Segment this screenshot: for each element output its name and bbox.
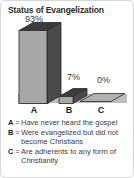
bar-chart-plot — [1, 14, 134, 106]
bar-value-label-a: 93% — [25, 14, 43, 24]
bar-value-label-c: 0% — [97, 75, 110, 85]
chart-legend: A = Have never heard the gospel B = Were… — [8, 118, 132, 166]
legend-item-b: B = Were evangelized but did not become … — [8, 128, 132, 147]
legend-equals-c: = — [14, 147, 21, 157]
chart-card: Status of Evangelization — [0, 0, 134, 178]
legend-text-b: Were evangelized but did not become Chri… — [21, 128, 132, 147]
legend-equals-a: = — [14, 118, 21, 128]
bar-value-label-b: 7% — [67, 72, 80, 82]
legend-item-c: C = Are adherents to any form of Christi… — [8, 147, 132, 166]
bar-a — [19, 23, 61, 104]
legend-item-a: A = Have never heard the gospel — [8, 118, 132, 128]
category-label-a: A — [27, 105, 41, 115]
category-label-c: C — [94, 105, 108, 115]
legend-equals-b: = — [14, 128, 21, 138]
bar-chart-svg — [1, 14, 134, 106]
legend-text-c: Are adherents to any form of Christianit… — [21, 147, 132, 166]
legend-text-a: Have never heard the gospel — [21, 118, 132, 128]
category-label-b: B — [62, 105, 76, 115]
